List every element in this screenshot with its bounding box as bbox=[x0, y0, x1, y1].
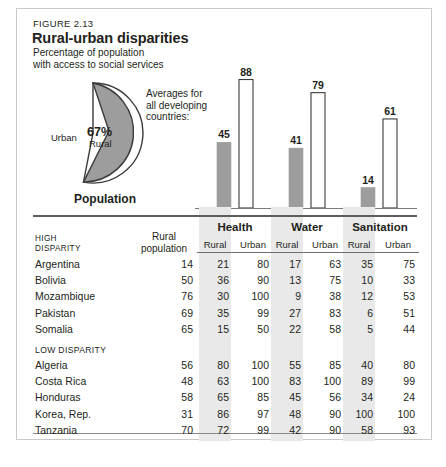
table-cell-rural-pop: 56 bbox=[153, 359, 193, 371]
bar-value-water-urban: 79 bbox=[312, 79, 324, 91]
pie-label-rural: Rural bbox=[89, 138, 112, 149]
table-cell-water-rural: 48 bbox=[261, 408, 301, 420]
table-cell-health-rural: 80 bbox=[189, 359, 229, 371]
bar-water-urban bbox=[311, 93, 325, 208]
bar-sanitation-rural bbox=[361, 188, 375, 208]
figure-number: FIGURE 2.13 bbox=[33, 18, 93, 29]
table-group-sanitation: Sanitation bbox=[339, 221, 421, 233]
table-cell-san-rural: 6 bbox=[333, 307, 373, 319]
bar-value-health-rural: 45 bbox=[218, 128, 230, 140]
figure-subtitle-line1: Percentage of population bbox=[33, 47, 164, 59]
table-cell-water-rural: 9 bbox=[261, 290, 301, 302]
table-cell-water-rural: 17 bbox=[261, 258, 301, 270]
table-cell-san-urban: 24 bbox=[375, 391, 415, 403]
bar-water-rural bbox=[289, 148, 303, 208]
pie-caption: Population bbox=[55, 192, 155, 206]
table-cell-san-urban: 33 bbox=[375, 274, 415, 286]
averages-note: Averages for all developing countries: bbox=[146, 88, 207, 123]
table-row-country[interactable]: Mozambique bbox=[35, 290, 95, 302]
table-cell-rural-pop: 65 bbox=[153, 323, 193, 335]
bar-value-sanitation-urban: 61 bbox=[384, 105, 396, 117]
table-cell-health-rural: 36 bbox=[189, 274, 229, 286]
bar-value-health-urban: 88 bbox=[240, 66, 252, 78]
table-cell-san-rural: 58 bbox=[333, 424, 373, 436]
table-row-country[interactable]: Bolivia bbox=[35, 274, 66, 286]
table-cell-health-rural: 21 bbox=[189, 258, 229, 270]
table-header-high-disparity: HIGH DISPARITY bbox=[35, 234, 81, 253]
table-row-country[interactable]: Algeria bbox=[35, 359, 68, 371]
table-row-country[interactable]: Korea, Rep. bbox=[35, 408, 91, 420]
high-disparity-line2: DISPARITY bbox=[35, 244, 81, 254]
table-cell-water-rural: 22 bbox=[261, 323, 301, 335]
table-cell-san-urban: 75 bbox=[375, 258, 415, 270]
table-cell-san-urban: 44 bbox=[375, 323, 415, 335]
table-cell-water-rural: 55 bbox=[261, 359, 301, 371]
table-cell-san-rural: 10 bbox=[333, 274, 373, 286]
table-cell-rural-pop: 48 bbox=[153, 375, 193, 387]
figure-title: Rural-urban disparities bbox=[32, 30, 188, 46]
table-row-country[interactable]: Argentina bbox=[35, 258, 80, 270]
rural-population-line2: population bbox=[121, 243, 207, 255]
table-cell-health-rural: 65 bbox=[189, 391, 229, 403]
table-cell-san-rural: 35 bbox=[333, 258, 373, 270]
table-cell-health-rural: 30 bbox=[189, 290, 229, 302]
rule-water bbox=[269, 252, 345, 253]
table-cell-san-urban: 99 bbox=[375, 375, 415, 387]
table-cell-rural-pop: 50 bbox=[153, 274, 193, 286]
table-cell-health-rural: 15 bbox=[189, 323, 229, 335]
subheader-sanitation-rural: Rural bbox=[341, 239, 377, 250]
rule-sanitation bbox=[341, 252, 419, 253]
table-cell-rural-pop: 76 bbox=[153, 290, 193, 302]
table-cell-san-rural: 12 bbox=[333, 290, 373, 302]
rural-population-line1: Rural bbox=[121, 231, 207, 243]
table-cell-san-urban: 51 bbox=[375, 307, 415, 319]
table-row-country[interactable]: Costa Rica bbox=[35, 375, 86, 387]
table-cell-health-rural: 63 bbox=[189, 375, 229, 387]
table-cell-san-urban: 53 bbox=[375, 290, 415, 302]
subheader-water-rural: Rural bbox=[269, 239, 305, 250]
table-header-rural-population: Rural population bbox=[121, 231, 207, 254]
table-cell-san-rural: 100 bbox=[333, 408, 373, 420]
table-row-country[interactable]: Honduras bbox=[35, 391, 81, 403]
subheader-health-rural: Rural bbox=[197, 239, 233, 250]
averages-note-line1: Averages for bbox=[146, 88, 207, 100]
table-cell-san-rural: 89 bbox=[333, 375, 373, 387]
table-cell-san-urban: 93 bbox=[375, 424, 415, 436]
figure-subtitle: Percentage of population with access to … bbox=[33, 47, 164, 70]
table-cell-rural-pop: 70 bbox=[153, 424, 193, 436]
table-cell-san-rural: 40 bbox=[333, 359, 373, 371]
table-cell-health-rural: 72 bbox=[189, 424, 229, 436]
population-pie-chart: Urban 67% Rural Population bbox=[31, 81, 161, 216]
high-disparity-line1: HIGH bbox=[35, 234, 81, 244]
table-cell-water-rural: 13 bbox=[261, 274, 301, 286]
subheader-water-urban: Urban bbox=[305, 239, 345, 250]
averages-note-line2: all developing bbox=[146, 100, 207, 112]
rule-health bbox=[197, 252, 273, 253]
bar-value-sanitation-rural: 14 bbox=[362, 174, 374, 186]
table-cell-san-rural: 5 bbox=[333, 323, 373, 335]
pie-label-urban: Urban bbox=[51, 132, 77, 143]
bar-health-rural bbox=[217, 142, 231, 208]
subheader-sanitation-urban: Urban bbox=[377, 239, 419, 250]
table-cell-san-rural: 34 bbox=[333, 391, 373, 403]
table-group-water: Water bbox=[269, 221, 345, 233]
figure-subtitle-line2: with access to social services bbox=[33, 59, 164, 71]
table-row-country[interactable]: Pakistan bbox=[35, 307, 75, 319]
table-cell-san-urban: 100 bbox=[375, 408, 415, 420]
table-cell-water-rural: 83 bbox=[261, 375, 301, 387]
disparity-table: Health Water Sanitation HIGH DISPARITY R… bbox=[17, 207, 433, 441]
table-group-health: Health bbox=[197, 221, 273, 233]
table-cell-rural-pop: 58 bbox=[153, 391, 193, 403]
table-top-rule bbox=[33, 215, 417, 217]
bar-health-urban bbox=[239, 80, 253, 208]
pie-label-rural-percent: 67% bbox=[87, 125, 112, 139]
table-cell-water-rural: 45 bbox=[261, 391, 301, 403]
averages-note-line3: countries: bbox=[146, 111, 207, 123]
table-cell-rural-pop: 69 bbox=[153, 307, 193, 319]
table-cell-rural-pop: 31 bbox=[153, 408, 193, 420]
table-row-country[interactable]: Tanzania bbox=[35, 424, 77, 436]
table-cell-water-rural: 42 bbox=[261, 424, 301, 436]
table-cell-san-urban: 80 bbox=[375, 359, 415, 371]
table-row-country[interactable]: Somalia bbox=[35, 323, 73, 335]
table-cell-rural-pop: 14 bbox=[153, 258, 193, 270]
